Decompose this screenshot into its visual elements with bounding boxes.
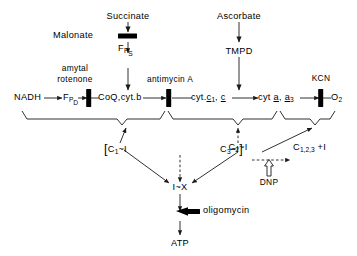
oxygen-subscript: 2: [338, 96, 342, 103]
inhibitor-bar-kcn: [318, 89, 323, 107]
label-released-carriers: C1,2,3 +I: [293, 143, 326, 154]
label-oxygen: O2: [331, 93, 342, 104]
label-fp-s: FPS: [118, 44, 133, 58]
brace-site-3: [280, 111, 335, 125]
label-coupling-site-1: [C1~I: [104, 143, 127, 155]
released-c: C: [293, 142, 300, 152]
inhibitor-bar-malonate: [118, 34, 137, 39]
label-coq-cytb: CoQ,cyt.b: [98, 93, 142, 102]
label-malonate: Malonate: [53, 31, 93, 40]
arrow-brace1-to-c1i: [120, 128, 126, 143]
label-cyt-c1-c: cyt.c1, c: [191, 93, 226, 104]
site1-tilde-i: ~I: [118, 144, 127, 154]
cyt-a-letter: a: [274, 92, 279, 102]
cyt-a-prefix: cyt: [258, 92, 274, 102]
site3-close-bracket: ]: [239, 142, 243, 156]
label-i-tilde-x: I~X: [173, 183, 188, 192]
label-antimycin-a: antimycin A: [147, 75, 193, 83]
site3-c: C: [220, 144, 227, 154]
inhibitor-bar-amytal-rotenone: [86, 89, 91, 107]
released-plus-i: +I: [318, 142, 327, 152]
cyt-c-letter: c: [221, 92, 226, 102]
label-amytal: amytal: [62, 64, 88, 72]
site1-c: C: [108, 144, 115, 154]
label-oligomycin: oligomycin: [203, 206, 249, 215]
inhibitor-bar-oligomycin-body: [186, 209, 200, 214]
brace-site-2: [168, 111, 277, 125]
label-ascorbate: Ascorbate: [217, 12, 261, 21]
arrow-c1i-to-ix: [124, 150, 169, 183]
brace-site-1: [22, 111, 165, 125]
dnp-hollow-arrow: [265, 160, 274, 177]
released-subscript: 1,2,3: [300, 146, 315, 153]
label-dnp: DNP: [260, 178, 279, 186]
label-tmpd: TMPD: [225, 47, 252, 56]
label-coupling-site-3: C3~I]: [220, 143, 243, 155]
label-nadh: NADH: [14, 93, 41, 102]
label-kcn: KCN: [312, 74, 331, 82]
coq-cytb-text: CoQ,cyt.b: [98, 92, 142, 102]
cyt-a3-subscript: 3: [290, 96, 294, 103]
site3-tilde-i: ~I: [231, 144, 240, 154]
arrow-c3i-to-ix: [192, 152, 238, 183]
inhibitor-bar-antimycin-a: [166, 89, 171, 107]
label-rotenone: rotenone: [57, 75, 92, 83]
cyt-c-prefix: cyt.: [191, 92, 207, 102]
label-atp: ATP: [171, 239, 189, 248]
fp-s-subscript: S: [128, 50, 132, 57]
fp-d-subscript: D: [73, 99, 78, 106]
diagram-canvas: C1,2,3 + I ===== --> Succinate Ascorbate: [0, 0, 357, 256]
label-succinate: Succinate: [106, 12, 149, 21]
label-cyt-a-a3: cyt a, a3: [258, 93, 294, 104]
cyt-c1-subscript: 1: [211, 96, 215, 103]
label-fp-d: FPD: [63, 93, 78, 107]
